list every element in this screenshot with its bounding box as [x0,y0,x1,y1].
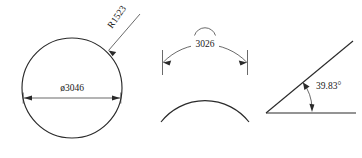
arc-length-label: 3026 [196,39,215,49]
arc-outline [161,101,249,122]
diameter-label: ø3046 [60,83,84,93]
radius-label: R1523 [105,3,128,30]
angle-arrow-upper [303,83,310,90]
circle-figure: ø3046 R1523 [22,3,140,138]
arc-length-symbol [195,28,216,36]
angle-label: 39.83° [316,81,341,91]
arc-figure: 3026 [161,28,249,122]
technical-drawing-canvas: ø3046 R1523 3026 [0,0,362,158]
angle-arrow-lower [309,104,314,112]
angle-inclined-ray [266,41,353,113]
diameter-arrow-left [24,96,32,101]
diameter-arrow-right [112,96,120,101]
angle-figure: 39.83° [266,41,356,113]
